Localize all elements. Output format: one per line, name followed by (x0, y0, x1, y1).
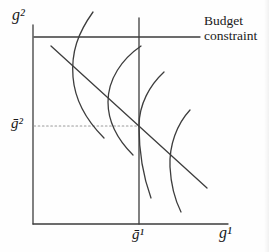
gbar1-value-label: ḡ¹ (132, 226, 144, 243)
scan-edge-shading (264, 0, 269, 252)
indifference-curve-2 (108, 46, 141, 155)
budget-constraint-label: Budget constraint (204, 14, 266, 43)
indifference-curve-1 (73, 12, 104, 138)
indifference-curve-3 (139, 72, 164, 198)
x-axis-label: g¹ (219, 224, 232, 242)
economics-figure: g² g¹ ḡ² ḡ¹ Budget constraint (0, 0, 269, 252)
gbar2-value-label: ḡ² (11, 115, 23, 132)
y-axis-label: g² (12, 6, 25, 24)
indifference-curve-4 (170, 110, 190, 212)
